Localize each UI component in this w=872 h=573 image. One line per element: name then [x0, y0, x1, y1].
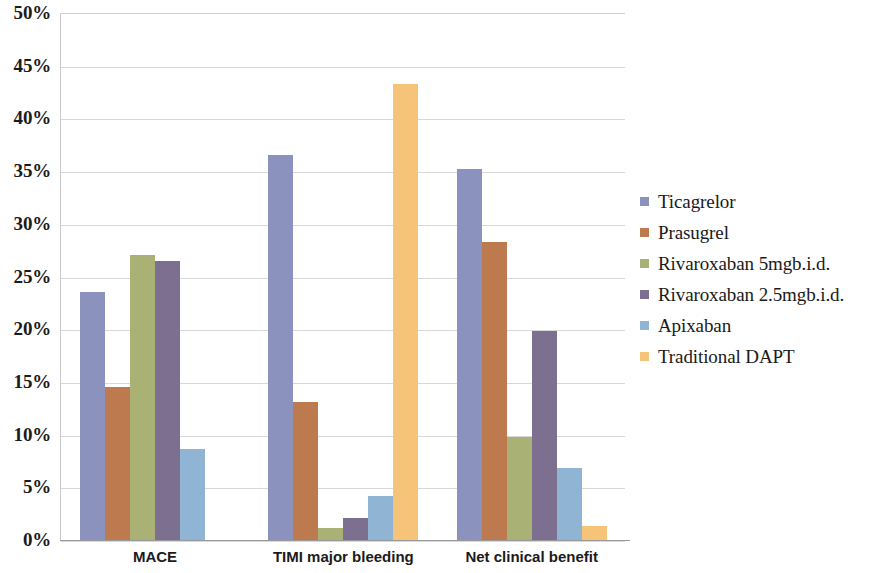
y-tick-label: 45% — [14, 55, 51, 77]
legend-item[interactable]: Traditional DAPT — [640, 341, 872, 372]
bar — [80, 292, 105, 540]
legend-swatch-icon — [640, 290, 649, 299]
bar — [368, 496, 393, 540]
legend-label: Traditional DAPT — [658, 346, 795, 368]
bar — [130, 255, 155, 540]
legend-item[interactable]: Rivaroxaban 5mgb.i.d. — [640, 248, 872, 279]
y-tick-label: 5% — [23, 476, 51, 498]
legend-item[interactable]: Apixaban — [640, 310, 872, 341]
x-axis: MACETIMI major bleedingNet clinical bene… — [60, 544, 630, 573]
legend-label: Rivaroxaban 2.5mgb.i.d. — [658, 284, 844, 306]
chart-legend: TicagrelorPrasugrelRivaroxaban 5mgb.i.d.… — [640, 186, 872, 372]
y-tick-label: 30% — [14, 213, 51, 235]
bar — [507, 437, 532, 540]
legend-swatch-icon — [640, 197, 649, 206]
y-tick-label: 15% — [14, 371, 51, 393]
bar — [557, 468, 582, 540]
x-category-label: Net clinical benefit — [465, 548, 598, 565]
legend-swatch-icon — [640, 321, 649, 330]
y-tick-label: 35% — [14, 160, 51, 182]
x-axis-line — [60, 540, 630, 541]
legend-label: Prasugrel — [658, 222, 729, 244]
legend-item[interactable]: Ticagrelor — [640, 186, 872, 217]
bar — [293, 402, 318, 540]
bar — [582, 526, 607, 540]
bar — [318, 528, 343, 540]
legend-label: Apixaban — [658, 315, 731, 337]
y-tick-label: 40% — [14, 107, 51, 129]
bar — [343, 518, 368, 540]
legend-swatch-icon — [640, 352, 649, 361]
legend-item[interactable]: Rivaroxaban 2.5mgb.i.d. — [640, 279, 872, 310]
x-category-label: TIMI major bleeding — [273, 548, 414, 565]
legend-label: Rivaroxaban 5mgb.i.d. — [658, 253, 830, 275]
bar — [532, 331, 557, 540]
bar — [180, 449, 205, 540]
bar — [155, 261, 180, 540]
bar — [268, 155, 293, 540]
legend-swatch-icon — [640, 228, 649, 237]
bar-chart: 0%5%10%15%20%25%30%35%40%45%50% MACETIMI… — [0, 0, 872, 573]
y-tick-label: 10% — [14, 424, 51, 446]
y-tick-label: 25% — [14, 266, 51, 288]
bar — [457, 169, 482, 540]
gridline — [61, 541, 625, 542]
y-tick-label: 0% — [23, 529, 51, 551]
y-tick-label: 50% — [14, 2, 51, 24]
bar — [393, 84, 418, 540]
bars-layer — [60, 13, 625, 540]
x-category-label: MACE — [133, 548, 177, 565]
legend-item[interactable]: Prasugrel — [640, 217, 872, 248]
bar — [482, 242, 507, 540]
bar — [105, 387, 130, 540]
y-axis: 0%5%10%15%20%25%30%35%40%45%50% — [0, 0, 58, 573]
legend-swatch-icon — [640, 259, 649, 268]
legend-label: Ticagrelor — [658, 191, 735, 213]
y-tick-label: 20% — [14, 318, 51, 340]
